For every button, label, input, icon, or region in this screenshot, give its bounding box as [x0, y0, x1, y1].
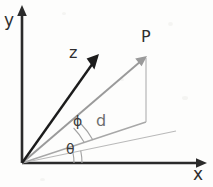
vector-diagram-figure: y x z P ϕ θ d — [0, 0, 213, 187]
x-axis-label: x — [193, 166, 203, 183]
angle-theta-arc-outer — [81, 151, 82, 163]
position-vector-P — [22, 56, 147, 163]
z-vector-label: z — [69, 45, 77, 61]
y-axis-arrowhead — [17, 5, 27, 16]
y-axis-label: y — [4, 12, 14, 29]
z-axis-vector — [22, 54, 99, 163]
theta-reference-line — [22, 131, 176, 163]
y-axis — [17, 5, 27, 163]
diagram-canvas — [0, 0, 213, 187]
angle-phi-label: ϕ — [73, 114, 82, 128]
x-axis — [22, 158, 207, 168]
p-vector-label: P — [141, 29, 151, 45]
z-vector-arrowhead — [87, 54, 99, 69]
d-segment-label: d — [96, 113, 106, 129]
angle-phi-arc-outer — [81, 124, 93, 140]
angle-theta-label: θ — [66, 142, 75, 156]
angle-phi-arc — [74, 128, 85, 143]
